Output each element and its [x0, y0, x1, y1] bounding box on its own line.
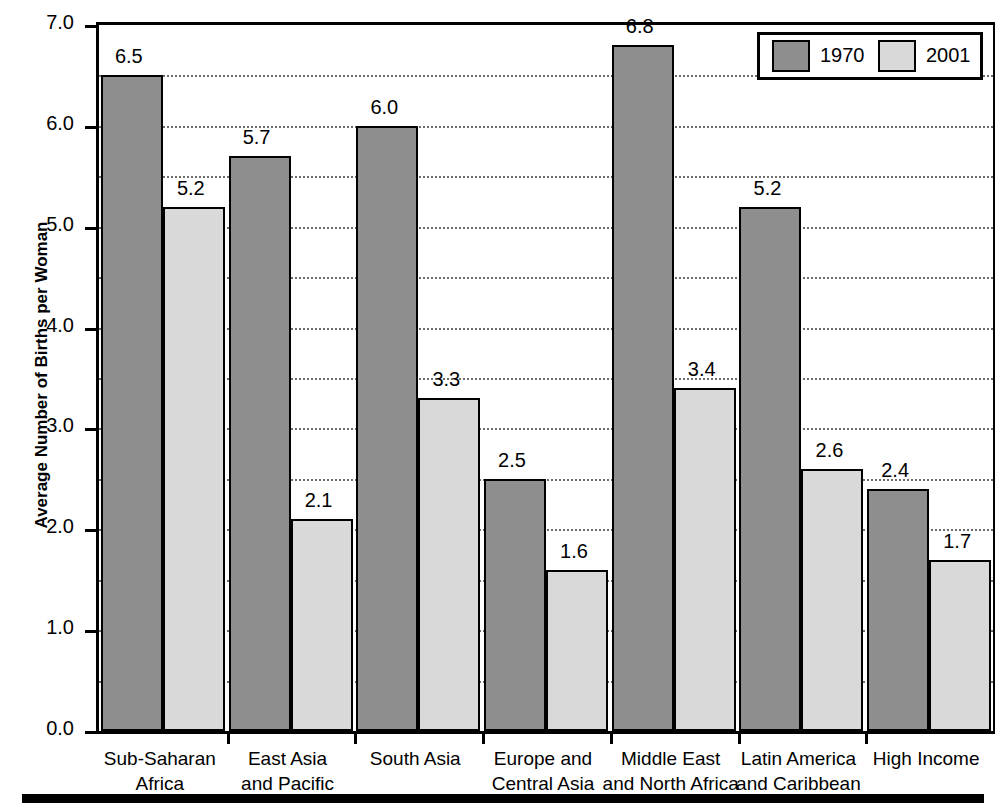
bar-2001-4	[674, 388, 736, 731]
bar-1970-0	[101, 75, 163, 731]
bar-value-label: 2.4	[850, 460, 940, 480]
x-axis-tick	[610, 731, 613, 744]
bar-chart-figure: Average Number of Births per Woman 7.06.…	[0, 0, 1006, 810]
x-axis-tick	[865, 731, 868, 744]
x-axis-category-label-line: High Income	[840, 746, 1006, 771]
bar-value-label: 6.8	[595, 16, 685, 36]
bar-value-label: 5.7	[212, 127, 302, 147]
bar-2001-6	[929, 560, 991, 731]
bar-2001-2	[418, 398, 480, 731]
bar-value-label: 2.1	[274, 490, 364, 510]
x-axis-category-label: High Income	[840, 746, 1006, 771]
bar-value-label: 5.2	[146, 178, 236, 198]
y-axis-tick	[85, 328, 99, 331]
bar-2001-0	[163, 207, 225, 731]
y-axis-tick-label: 4.0	[10, 315, 74, 335]
bar-value-label: 3.4	[657, 359, 747, 379]
y-axis-tick-label: 0.0	[10, 718, 74, 738]
x-axis-tick	[482, 731, 485, 744]
legend-label-1970: 1970	[820, 43, 865, 67]
y-axis-tick	[85, 529, 99, 532]
y-axis-tick	[85, 25, 99, 28]
bar-value-label: 3.3	[401, 369, 491, 389]
legend-swatch-1970	[772, 40, 810, 72]
x-axis-category-label-line: and Pacific	[202, 771, 374, 796]
chart-legend: 1970 2001	[757, 32, 983, 80]
y-axis-tick-label: 5.0	[10, 214, 74, 234]
bar-value-label: 1.7	[912, 531, 1002, 551]
y-axis-tick	[85, 731, 99, 734]
bar-1970-6	[867, 489, 929, 731]
bottom-divider-rule	[22, 794, 984, 803]
y-axis-tick	[85, 126, 99, 129]
y-axis-tick	[85, 428, 99, 431]
legend-swatch-2001	[878, 40, 916, 72]
bar-1970-5	[739, 207, 801, 731]
bar-2001-3	[546, 570, 608, 731]
x-axis-tick	[354, 731, 357, 744]
x-axis-tick	[227, 731, 230, 744]
x-axis-tick	[738, 731, 741, 744]
bar-2001-5	[801, 469, 863, 731]
bar-value-label: 6.5	[84, 46, 174, 66]
x-axis-category-label-line: and Caribbean	[713, 771, 885, 796]
y-axis-tick-label: 2.0	[10, 516, 74, 536]
bar-value-label: 5.2	[722, 178, 812, 198]
y-axis-tick-label: 1.0	[10, 617, 74, 637]
bar-1970-3	[484, 479, 546, 731]
legend-label-2001: 2001	[926, 43, 971, 67]
y-axis-tick-label: 3.0	[10, 415, 74, 435]
bar-2001-1	[291, 519, 353, 731]
bar-value-label: 1.6	[529, 541, 619, 561]
bar-value-label: 2.5	[467, 450, 557, 470]
y-axis-tick	[85, 630, 99, 633]
bar-value-label: 6.0	[339, 97, 429, 117]
bar-1970-4	[612, 45, 674, 731]
y-axis-tick	[85, 227, 99, 230]
bar-1970-1	[229, 156, 291, 731]
bar-value-label: 2.6	[784, 440, 874, 460]
bar-1970-2	[356, 126, 418, 731]
y-axis-tick-label: 6.0	[10, 113, 74, 133]
y-axis-tick-label: 7.0	[10, 12, 74, 32]
